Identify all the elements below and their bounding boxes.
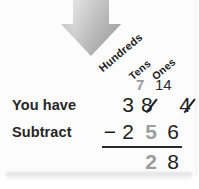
regroup-mark-ones: 14: [155, 76, 172, 93]
minuend-row: 3 8 4: [0, 93, 199, 117]
minuend-ones-digit: 4: [179, 93, 191, 116]
subtrahend-ones-digit: 6: [163, 120, 183, 144]
minus-operator: −: [100, 120, 120, 144]
minuend-hundreds-digit: 3: [118, 93, 138, 117]
regroup-mark-tens: 7: [136, 76, 144, 93]
card-shadow: [6, 172, 192, 181]
regroup-row: 7 14: [0, 76, 199, 94]
subtrahend-row: − 2 5 6: [0, 120, 199, 144]
answer-tens-digit: 2: [141, 150, 161, 174]
subtraction-rule: [102, 146, 182, 148]
minuend-tens-digit: 8: [141, 93, 153, 116]
subtrahend-hundreds-digit: 2: [118, 120, 138, 144]
answer-ones-digit: 8: [163, 150, 183, 174]
worksheet-page: Hundreds Tens Ones 7 14 You have Subtrac…: [0, 0, 199, 189]
subtrahend-tens-digit: 5: [141, 120, 161, 144]
answer-row: 2 8: [0, 150, 199, 174]
